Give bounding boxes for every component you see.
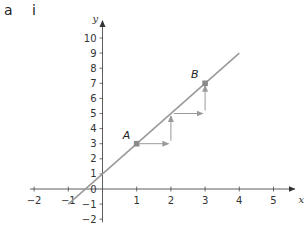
y-tick-label: −2 bbox=[82, 214, 97, 225]
point-b-label: B bbox=[191, 68, 199, 81]
y-tick-label: 4 bbox=[90, 123, 96, 134]
y-tick-label: 3 bbox=[90, 138, 96, 149]
y-axis-label: y bbox=[92, 13, 99, 24]
y-tick-label: 2 bbox=[90, 153, 96, 164]
y-tick-label: 8 bbox=[90, 63, 96, 74]
x-axis-label: x bbox=[299, 194, 305, 205]
point-a-marker bbox=[134, 141, 140, 147]
x-tick-label: 4 bbox=[236, 195, 242, 206]
y-tick-label: 9 bbox=[90, 48, 96, 59]
x-tick-label: 5 bbox=[270, 195, 276, 206]
points: AB bbox=[122, 68, 208, 146]
y-tick-label: 1 bbox=[90, 168, 96, 179]
chart: −2−112345−2−1123456789100xy AB bbox=[0, 0, 308, 226]
x-tick-label: −2 bbox=[27, 195, 42, 206]
point-a-label: A bbox=[122, 129, 131, 142]
origin-label: 0 bbox=[90, 184, 96, 195]
y-tick-label: 7 bbox=[90, 78, 96, 89]
y-tick-label: 10 bbox=[84, 33, 97, 44]
x-tick-label: 2 bbox=[168, 195, 174, 206]
x-tick-label: 1 bbox=[134, 195, 140, 206]
y-tick-label: 6 bbox=[90, 93, 96, 104]
point-b-marker bbox=[202, 81, 208, 87]
step-arrows bbox=[140, 86, 205, 144]
y-tick-label: 5 bbox=[90, 108, 96, 119]
x-tick-label: 3 bbox=[202, 195, 208, 206]
y-tick-label: −1 bbox=[82, 199, 97, 210]
